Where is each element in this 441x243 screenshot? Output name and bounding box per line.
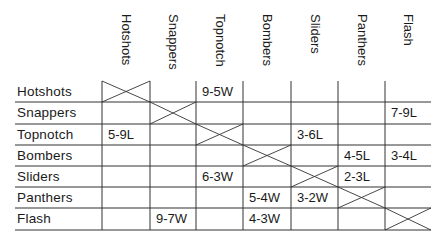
- grid-lines: [0, 0, 441, 243]
